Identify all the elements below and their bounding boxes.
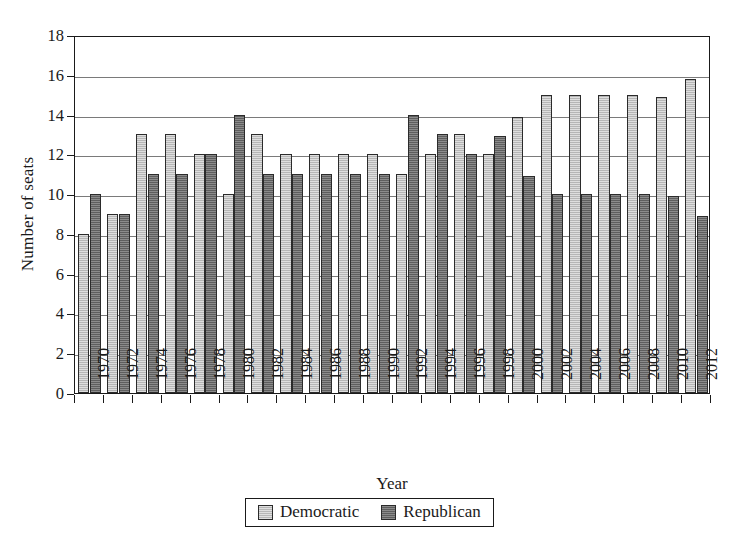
x-tick-label-1996: 1996	[471, 348, 489, 408]
x-tick-label-2000: 2000	[529, 348, 547, 408]
y-tick-mark	[67, 275, 74, 276]
y-tick-label: 4	[30, 304, 64, 324]
x-tick-label-1982: 1982	[269, 348, 287, 408]
bar-democratic-2012	[685, 79, 696, 393]
y-tick-mark	[67, 314, 74, 315]
bar-democratic-1970	[78, 234, 89, 393]
legend-label: Democratic	[280, 502, 359, 522]
x-axis-title: Year	[74, 474, 710, 494]
x-tick-label-1970: 1970	[95, 348, 113, 408]
bar-chart-figure: Number of seats 024681012141618 19701972…	[0, 0, 745, 556]
x-tick-label-1988: 1988	[356, 348, 374, 408]
x-tick-label-2010: 2010	[674, 348, 692, 408]
x-tick-label-1986: 1986	[327, 348, 345, 408]
bar-series-group	[75, 37, 709, 393]
x-tick-label-1992: 1992	[413, 348, 431, 408]
x-tick-label-1976: 1976	[182, 348, 200, 408]
x-tick-label-2008: 2008	[645, 348, 663, 408]
y-tick-label: 6	[30, 265, 64, 285]
x-tick-label-1980: 1980	[240, 348, 258, 408]
y-tick-label: 10	[30, 185, 64, 205]
x-tick-label-1998: 1998	[500, 348, 518, 408]
y-tick-label: 16	[30, 66, 64, 86]
x-tick-label-1978: 1978	[211, 348, 229, 408]
x-tick-mark	[74, 395, 75, 403]
chart-legend: DemocraticRepublican	[245, 498, 494, 527]
x-tick-label-1984: 1984	[298, 348, 316, 408]
y-tick-mark	[67, 235, 74, 236]
y-tick-mark	[67, 354, 74, 355]
plot-area	[74, 36, 710, 394]
x-tick-label-2006: 2006	[616, 348, 634, 408]
y-tick-mark	[67, 116, 74, 117]
legend-swatch-dem	[258, 505, 273, 520]
y-tick-label: 8	[30, 225, 64, 245]
x-tick-label-1994: 1994	[442, 348, 460, 408]
y-tick-label: 12	[30, 145, 64, 165]
y-tick-mark	[67, 155, 74, 156]
legend-swatch-rep	[381, 505, 396, 520]
legend-label: Republican	[403, 502, 480, 522]
y-tick-label: 14	[30, 106, 64, 126]
y-tick-mark	[67, 195, 74, 196]
y-tick-label: 18	[30, 26, 64, 46]
x-tick-label-1972: 1972	[124, 348, 142, 408]
x-tick-label-2002: 2002	[558, 348, 576, 408]
y-tick-mark	[67, 36, 74, 37]
x-tick-label-1974: 1974	[153, 348, 171, 408]
y-tick-mark	[67, 76, 74, 77]
x-tick-label-2012: 2012	[703, 348, 721, 408]
y-tick-label: 0	[30, 384, 64, 404]
legend-item-republican: Republican	[381, 502, 480, 522]
x-tick-label-1990: 1990	[385, 348, 403, 408]
x-tick-label-2004: 2004	[587, 348, 605, 408]
y-tick-label: 2	[30, 344, 64, 364]
legend-item-democratic: Democratic	[258, 502, 359, 522]
y-tick-mark	[67, 394, 74, 395]
